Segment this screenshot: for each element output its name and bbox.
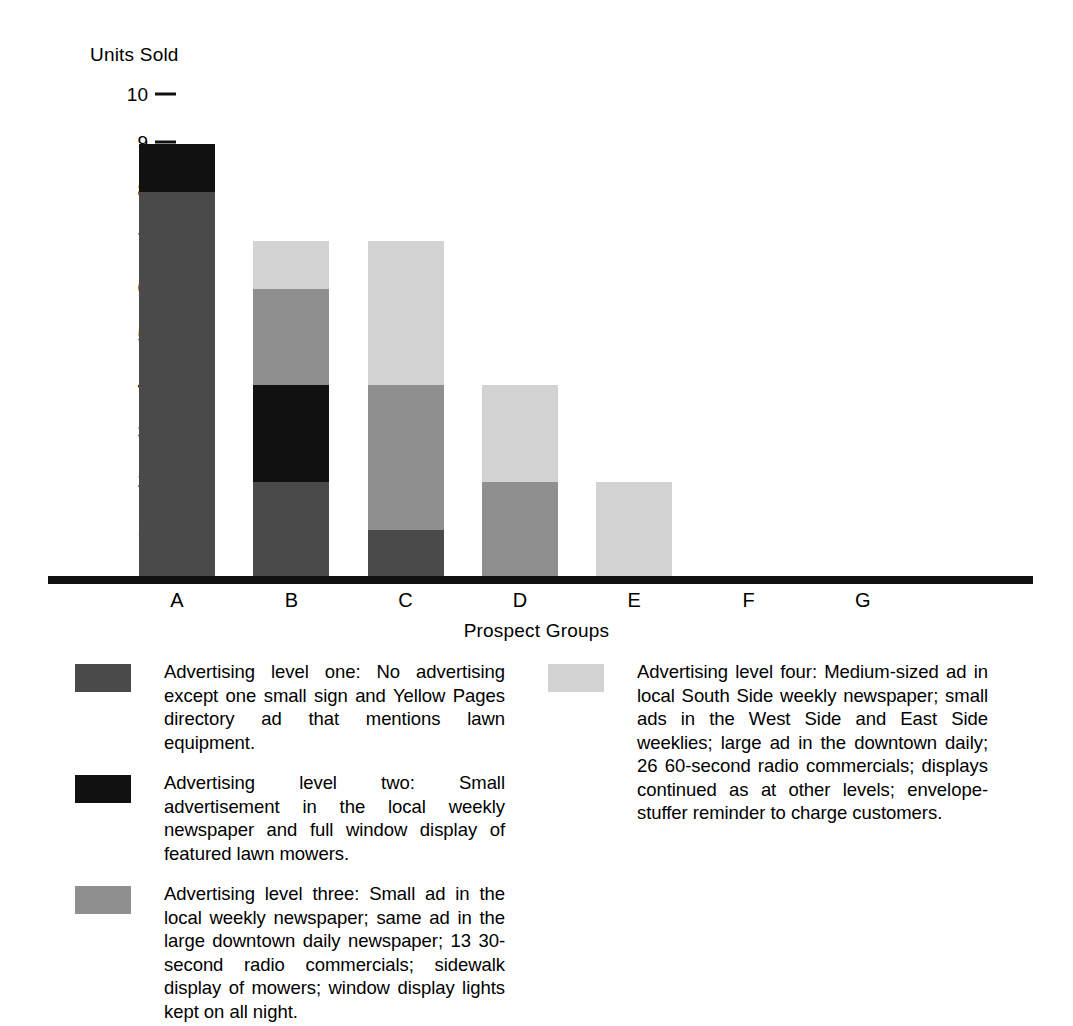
x-tick-label-F: F	[711, 589, 787, 612]
bar-segment-D-advertising-level-four	[482, 385, 558, 481]
legend-item: Advertising level three: Small ad in the…	[75, 882, 505, 1023]
chart-region: Units Sold 10987654321 Prospect Groups A…	[0, 0, 1073, 650]
x-tick-label-C: C	[368, 589, 444, 612]
x-tick-label-D: D	[482, 589, 558, 612]
bar-segment-A-advertising-level-two	[139, 144, 215, 192]
x-tick-label-A: A	[139, 589, 215, 612]
x-axis-title: Prospect Groups	[0, 620, 1073, 642]
legend-item: Advertising level four: Medium-sized ad …	[548, 660, 988, 825]
legend-swatch-level-one	[75, 664, 131, 692]
bar-segment-B-advertising-level-one	[253, 482, 329, 578]
x-tick-label-B: B	[253, 589, 329, 612]
bar-segment-C-advertising-level-four	[368, 241, 444, 386]
legend-item: Advertising level two: Small advertiseme…	[75, 771, 505, 865]
legend-item-text: Advertising level four: Medium-sized ad …	[637, 660, 988, 825]
legend-item: Advertising level one: No advertising ex…	[75, 660, 505, 754]
x-tick-label-G: G	[825, 589, 901, 612]
bar-E	[596, 482, 672, 578]
bar-C	[368, 241, 444, 578]
legend-item-text: Advertising level three: Small ad in the…	[164, 882, 505, 1023]
x-axis-line	[48, 576, 1033, 584]
bar-D	[482, 385, 558, 578]
legend-swatch-level-two	[75, 775, 131, 803]
bar-A	[139, 144, 215, 578]
legend-item-text: Advertising level one: No advertising ex…	[164, 660, 505, 754]
x-tick-label-E: E	[596, 589, 672, 612]
bar-B	[253, 241, 329, 578]
plot-area	[48, 0, 1033, 578]
bar-segment-A-advertising-level-one	[139, 192, 215, 578]
chart-legend: Advertising level one: No advertising ex…	[0, 660, 1073, 990]
bar-segment-B-advertising-level-four	[253, 241, 329, 289]
bar-segment-B-advertising-level-three	[253, 289, 329, 385]
bar-segment-C-advertising-level-one	[368, 530, 444, 578]
legend-item-text: Advertising level two: Small advertiseme…	[164, 771, 505, 865]
legend-swatch-level-three	[75, 886, 131, 914]
legend-swatch-level-four	[548, 664, 604, 692]
bar-segment-C-advertising-level-three	[368, 385, 444, 530]
bar-segment-E-advertising-level-four	[596, 482, 672, 578]
bar-segment-B-advertising-level-two	[253, 385, 329, 481]
legend-column-right: Advertising level four: Medium-sized ad …	[548, 660, 988, 842]
legend-column-left: Advertising level one: No advertising ex…	[75, 660, 505, 1026]
bar-segment-D-advertising-level-three	[482, 482, 558, 578]
